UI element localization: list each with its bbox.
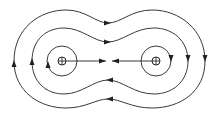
- inner-right-arrow-icon: [169, 55, 174, 62]
- outer-left-arrow-icon: [12, 60, 17, 67]
- outer-loop: [14, 10, 205, 108]
- left-charge-icon: [58, 57, 66, 65]
- right-charge-icon: [152, 57, 160, 65]
- outer-top-arrow-icon: [104, 21, 111, 26]
- outer-bottom-arrow-icon: [106, 97, 113, 102]
- axis-arrow-right-icon: [99, 59, 106, 64]
- middle-top-arrow-icon: [104, 40, 111, 45]
- middle-left-arrow-icon: [30, 58, 35, 65]
- axis-arrow-left-icon: [112, 59, 119, 64]
- middle-right-arrow-icon: [186, 55, 191, 62]
- middle-loop: [32, 28, 188, 94]
- outer-right-arrow-icon: [203, 55, 208, 62]
- field-line-diagram: Field lines between two equal charges: [0, 0, 217, 120]
- middle-bottom-arrow-icon: [106, 78, 113, 83]
- inner-left-arrow-icon: [46, 61, 51, 68]
